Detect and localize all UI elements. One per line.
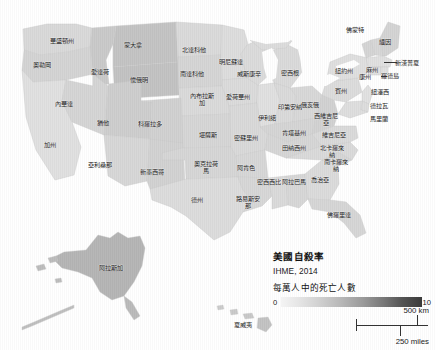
alaska-islands-2: [36, 264, 46, 271]
hawaii-maui: [243, 313, 254, 319]
legend-unit-label: 每萬人中的死亡人數: [273, 281, 433, 293]
scale-bar-km-label: 500 km: [403, 306, 429, 315]
state-alaska-mainland: [52, 232, 145, 300]
leader-line-rhode-island: [381, 76, 387, 77]
state-connecticut: [368, 67, 381, 75]
hawaii-bigisland: [257, 317, 272, 332]
state-arizona: [104, 135, 150, 186]
state-nebraska: [179, 86, 230, 116]
scale-bar-tick-origin: [356, 319, 357, 331]
alaska-islands-3: [55, 278, 62, 283]
state-kansas: [180, 114, 231, 148]
state-north-dakota: [176, 22, 222, 57]
state-mississippi: [268, 176, 288, 209]
scale-bar: 500 km 250 miles: [355, 306, 429, 346]
scale-bar-tick-miles: [400, 325, 401, 336]
scale-bar-miles-label: 250 miles: [396, 337, 429, 346]
hawaii-inset: [217, 305, 272, 332]
map-figure: 華盛頓州奧勒岡蒙大拿愛達荷懷俄明北達科他南達科他明尼蘇達威斯康辛內華達猶他科羅拉…: [0, 0, 435, 350]
state-rhode-island: [381, 67, 388, 74]
alaska-inset: [22, 232, 145, 330]
state-iowa: [222, 78, 258, 106]
hawaii-kauai: [217, 305, 224, 310]
alaska-aleutians: [22, 305, 74, 330]
contiguous-us-states: [22, 22, 400, 240]
state-florida: [308, 199, 366, 238]
state-maine: [380, 22, 400, 56]
hawaii-oahu: [230, 309, 238, 315]
state-montana: [113, 22, 178, 67]
state-new-jersey: [362, 85, 373, 104]
legend-source: IHME, 2014: [273, 266, 433, 276]
state-south-dakota: [178, 55, 222, 88]
scale-bar-tick-km: [417, 315, 418, 326]
state-alabama: [286, 174, 308, 208]
state-alaska-panhandle: [124, 296, 140, 320]
state-georgia: [305, 160, 339, 200]
legend: 美國自殺率 IHME, 2014 每萬人中的死亡人數 0 10: [273, 249, 433, 308]
legend-title: 美國自殺率: [273, 249, 433, 263]
leader-line-new-hampshire: [384, 62, 397, 63]
state-texas: [150, 177, 252, 240]
colorbar-min-label: 0: [273, 298, 277, 307]
